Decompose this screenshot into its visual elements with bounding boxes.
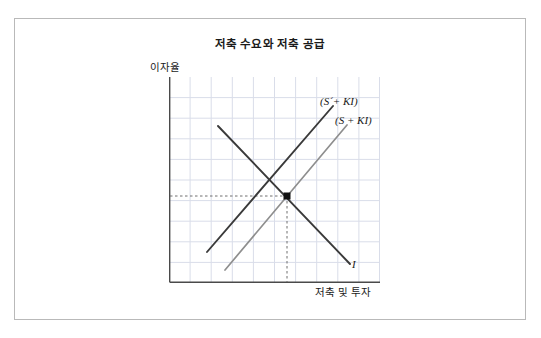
curve-label-saving: (S + KI) bbox=[335, 114, 372, 126]
plot-area bbox=[169, 77, 380, 283]
curve-label-investment: I bbox=[352, 258, 356, 270]
curve-label-saving-shifted: (S´+ KI) bbox=[320, 95, 358, 107]
equilibrium-guides bbox=[170, 196, 287, 282]
y-axis-label: 이자율 bbox=[150, 59, 180, 74]
figure-frame: 저축 수요와 저축 공급 이자율 저축 및 투자 bbox=[14, 18, 526, 320]
equilibrium-point bbox=[284, 193, 291, 200]
x-axis-label: 저축 및 투자 bbox=[315, 284, 371, 299]
plot-svg bbox=[169, 77, 380, 283]
chart-title: 저축 수요와 저축 공급 bbox=[15, 35, 525, 51]
grid-lines bbox=[169, 77, 380, 283]
saving-shifted-curve bbox=[207, 106, 333, 252]
